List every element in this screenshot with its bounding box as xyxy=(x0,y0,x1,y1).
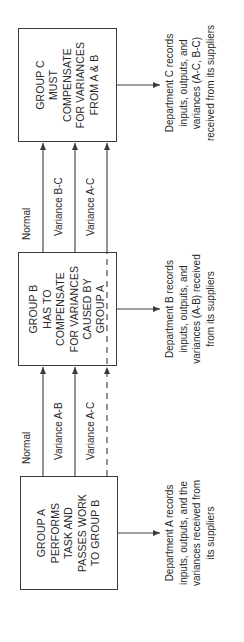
flow-b-c-variance-ac-label: Variance A-C xyxy=(85,178,96,236)
variance-flow-diagram: GROUP A PERFORMS TASK AND PASSES WORK TO… xyxy=(0,0,244,642)
department-c-description: Department C records inputs, outputs, an… xyxy=(163,13,217,153)
desc-c-line: variances (A-C, B-C) xyxy=(190,13,204,153)
group-c-line: MUST xyxy=(47,42,60,128)
desc-b-line: Department B records xyxy=(163,244,177,374)
desc-b-line: variances (A-B) received xyxy=(190,244,204,374)
desc-c-line: received from its suppliers xyxy=(204,13,218,153)
group-c-line: FOR VARIANCES xyxy=(74,42,87,128)
flow-a-b-normal-label: Normal xyxy=(21,432,32,464)
flow-b-c-variance-bc-label: Variance B-C xyxy=(53,177,64,236)
group-a-line: TO GROUP B xyxy=(89,494,102,572)
group-a-line: TASK AND xyxy=(62,494,75,572)
group-a-box: GROUP A PERFORMS TASK AND PASSES WORK TO… xyxy=(20,476,118,590)
desc-b-line: inputs, outputs, and xyxy=(177,244,191,374)
group-c-box: GROUP C MUST COMPENSATE FOR VARIANCES FR… xyxy=(18,28,117,142)
desc-a-line: its suppliers xyxy=(204,468,218,598)
department-a-description: Department A records inputs, outputs, an… xyxy=(163,468,217,598)
desc-c-line: Department C records xyxy=(163,13,177,153)
group-c-line: COMPENSATE xyxy=(61,42,74,128)
desc-a-line: variances received from xyxy=(190,468,204,598)
group-a-line: PASSES WORK xyxy=(76,494,89,572)
flow-a-b-variance-ab-label: Variance A-B xyxy=(53,402,64,460)
department-b-description: Department B records inputs, outputs, an… xyxy=(163,244,217,374)
desc-b-line: from its suppliers xyxy=(204,244,218,374)
group-b-line: FOR VARIANCES xyxy=(68,266,81,352)
group-a-line: GROUP A xyxy=(35,494,48,572)
flow-b-c-normal-label: Normal xyxy=(21,208,32,240)
group-b-line: COMPENSATE xyxy=(54,266,67,352)
group-b-line: GROUP A xyxy=(94,266,107,352)
group-b-box: GROUP B HAS TO COMPENSATE FOR VARIANCES … xyxy=(18,252,117,366)
desc-a-line: inputs, outputs, and the xyxy=(177,468,191,598)
group-b-line: HAS TO xyxy=(41,266,54,352)
group-b-line: CAUSED BY xyxy=(81,266,94,352)
group-a-line: PERFORMS xyxy=(49,494,62,572)
group-c-line: GROUP C xyxy=(34,42,47,128)
flow-a-c-label: Variance A-C xyxy=(85,402,96,460)
desc-c-line: inputs, outputs, and xyxy=(177,13,191,153)
group-b-line: GROUP B xyxy=(27,266,40,352)
group-c-line: FROM A & B xyxy=(88,42,101,128)
desc-a-line: Department A records xyxy=(163,468,177,598)
